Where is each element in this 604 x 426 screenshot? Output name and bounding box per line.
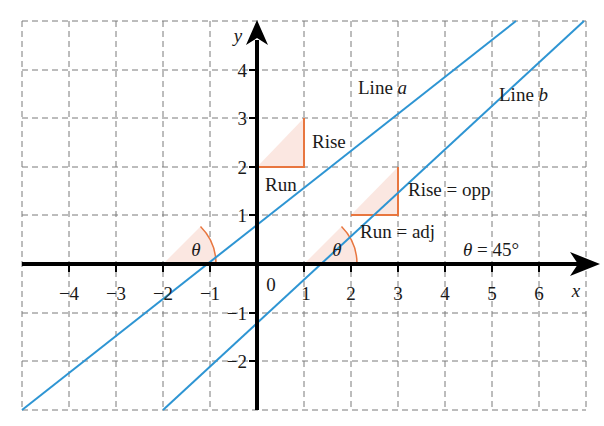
- angle-arc-b: [304, 227, 357, 265]
- coordinate-plane: −4 −3 −2 −1 1 2 3 4 5 6 0 x y 4 3 2 1 −1…: [0, 0, 604, 426]
- theta-label-a: θ: [191, 239, 200, 260]
- y-tick: 2: [238, 157, 248, 178]
- angle-arc-a: [163, 227, 216, 265]
- y-tick-labels: 4 3 2 1 −1 −2: [227, 60, 248, 372]
- y-tick: 1: [238, 205, 248, 226]
- x-tick: 4: [440, 283, 450, 304]
- y-tick: −1: [227, 303, 247, 324]
- x-tick: 5: [487, 283, 497, 304]
- run-label-b: Run = adj: [360, 221, 435, 242]
- origin-label: 0: [266, 274, 276, 295]
- x-tick: −4: [59, 283, 80, 304]
- theta-label-b: θ: [332, 239, 341, 260]
- rise-run-triangle-a: [257, 118, 304, 167]
- x-axis-label: x: [571, 280, 581, 301]
- y-axis-label: y: [232, 25, 243, 46]
- y-tick: −2: [227, 351, 247, 372]
- rise-label-b: Rise = opp: [408, 179, 491, 200]
- rise-run-triangle-b: [351, 167, 398, 215]
- x-tick-labels: −4 −3 −2 −1 1 2 3 4 5 6: [59, 283, 544, 304]
- y-tick: 4: [238, 60, 248, 81]
- y-tick: 3: [238, 108, 248, 129]
- rise-label-a: Rise: [312, 131, 346, 152]
- grid: [22, 21, 586, 410]
- x-tick: −2: [153, 283, 173, 304]
- x-tick: −1: [200, 283, 220, 304]
- angle-value-label: θ = 45°: [463, 239, 519, 260]
- x-tick: 2: [346, 283, 356, 304]
- x-tick: 1: [301, 283, 311, 304]
- x-tick: 6: [534, 283, 544, 304]
- run-label-a: Run: [265, 174, 297, 195]
- line-a-label: Line a: [358, 77, 407, 98]
- x-tick: 3: [393, 283, 403, 304]
- x-tick: −3: [106, 283, 126, 304]
- line-b-label: Line b: [499, 84, 548, 105]
